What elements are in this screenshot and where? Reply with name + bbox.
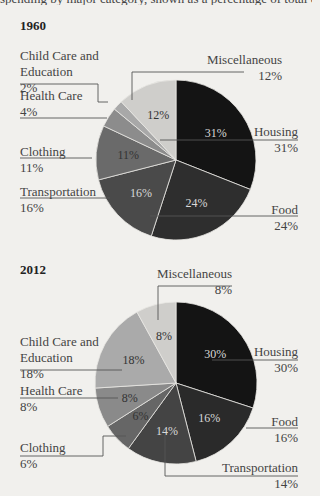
label-1960-misc: Miscellaneous 12% [150, 52, 282, 84]
slice-pct-label: 14% [156, 424, 178, 438]
label-name: Food [220, 414, 298, 430]
slice-pct-label: 24% [185, 196, 207, 210]
label-2012-clothing: Clothing 6% [20, 440, 66, 472]
label-name: Housing [220, 124, 298, 140]
label-pct: 16% [20, 200, 96, 216]
label-2012-child-care: Child Care and Education 18% [20, 334, 99, 382]
label-pct: 12% [150, 68, 282, 84]
label-name: Education [20, 64, 99, 80]
slice-pct-label: 8% [156, 329, 172, 343]
label-2012-housing: Housing 30% [220, 344, 298, 376]
label-1960-food: Food 24% [220, 202, 298, 234]
label-pct: 31% [220, 140, 298, 156]
label-name: Miscellaneous [150, 52, 282, 68]
label-2012-misc: Miscellaneous 8% [150, 266, 232, 298]
slice-pct-label: 12% [147, 108, 169, 122]
slice-pct-label: 8% [122, 391, 138, 405]
label-pct: 18% [20, 366, 99, 382]
slice-pct-label: 16% [198, 411, 220, 425]
label-name: Child Care and [20, 334, 99, 350]
label-name: Transportation [20, 184, 96, 200]
label-pct: 6% [20, 456, 66, 472]
label-pct: 8% [20, 399, 82, 415]
label-pct: 24% [220, 218, 298, 234]
label-name: Clothing [20, 144, 66, 160]
label-pct: 30% [220, 360, 298, 376]
label-pct: 4% [20, 104, 82, 120]
label-name: Clothing [20, 440, 66, 456]
label-2012-transportation: Transportation 14% [180, 460, 298, 492]
label-pct: 16% [220, 430, 298, 446]
slice-pct-label: 11% [117, 148, 139, 162]
label-name: Housing [220, 344, 298, 360]
label-name: Food [220, 202, 298, 218]
label-pct: 8% [150, 282, 232, 298]
slice-pct-label: 18% [122, 353, 144, 367]
label-name: Health Care [20, 383, 82, 399]
label-1960-housing: Housing 31% [220, 124, 298, 156]
label-1960-transportation: Transportation 16% [20, 184, 96, 216]
label-1960-clothing: Clothing 11% [20, 144, 66, 176]
label-name: Health Care [20, 88, 82, 104]
label-name: Transportation [180, 460, 298, 476]
label-1960-health-care: Health Care 4% [20, 88, 82, 120]
label-name: Education [20, 350, 99, 366]
label-pct: 11% [20, 160, 66, 176]
label-2012-food: Food 16% [220, 414, 298, 446]
label-pct: 14% [180, 476, 298, 492]
slice-pct-label: 6% [133, 409, 149, 423]
label-2012-health-care: Health Care 8% [20, 383, 82, 415]
slice-pct-label: 16% [130, 186, 152, 200]
label-name: Child Care and [20, 48, 99, 64]
label-name: Miscellaneous [150, 266, 232, 282]
